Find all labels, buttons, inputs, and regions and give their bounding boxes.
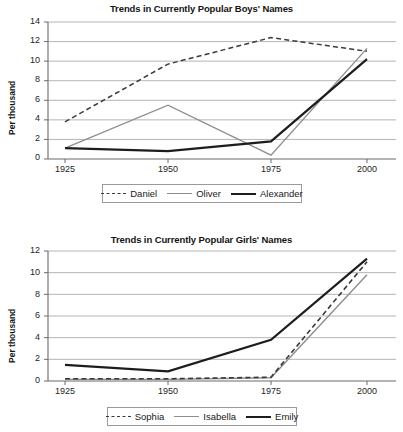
legend-label: Alexander	[260, 188, 303, 199]
gridlines	[48, 251, 396, 359]
legend-label: Isabella	[203, 411, 236, 422]
x-tick-marks	[65, 159, 367, 163]
legend-item-daniel[interactable]: Daniel	[96, 188, 162, 199]
gray-line-icon	[174, 416, 199, 417]
legend-item-emily[interactable]: Emily	[241, 411, 303, 422]
gray-line-icon	[167, 193, 192, 194]
black-line-icon	[231, 193, 256, 195]
x-tick-marks	[65, 381, 367, 385]
legend-item-oliver[interactable]: Oliver	[162, 188, 226, 199]
series-line-emily	[65, 259, 367, 372]
series-line-daniel	[65, 38, 367, 122]
legend-boys: Daniel Oliver Alexander	[102, 184, 302, 203]
gridlines	[48, 22, 396, 139]
legend-item-isabella[interactable]: Isabella	[169, 411, 241, 422]
legend-item-alexander[interactable]: Alexander	[226, 188, 308, 199]
dashed-line-icon	[106, 416, 131, 417]
plot-area-girls	[0, 216, 403, 432]
chart-boys-names: Trends in Currently Popular Boys' Names …	[0, 0, 403, 216]
black-line-icon	[246, 416, 271, 418]
legend-item-sophia[interactable]: Sophia	[101, 411, 170, 422]
legend-label: Sophia	[135, 411, 165, 422]
dashed-line-icon	[101, 193, 126, 194]
y-tick-marks	[44, 22, 48, 159]
legend-label: Oliver	[196, 188, 221, 199]
series-line-sophia	[65, 262, 367, 379]
legend-girls: Sophia Isabella Emily	[107, 407, 297, 426]
y-tick-marks	[44, 251, 48, 381]
series-line-isabella	[65, 275, 367, 380]
legend-label: Daniel	[130, 188, 157, 199]
series-line-alexander	[65, 59, 367, 151]
chart-girls-names: Trends in Currently Popular Girls' Names…	[0, 216, 403, 432]
legend-label: Emily	[275, 411, 298, 422]
